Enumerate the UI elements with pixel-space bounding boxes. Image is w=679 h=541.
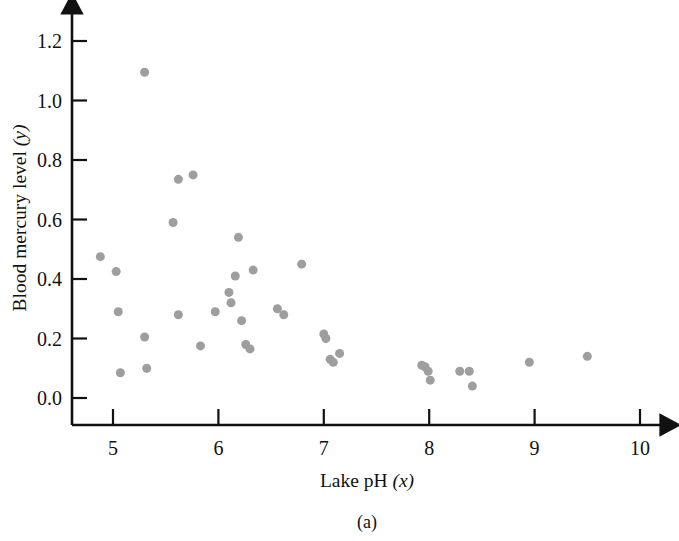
y-tick-label-0.0: 0.0	[37, 387, 62, 409]
y-tick-label-1.2: 1.2	[37, 30, 62, 52]
x-tick-label-8: 8	[424, 437, 434, 459]
data-point	[249, 266, 258, 275]
data-point	[189, 170, 198, 179]
data-point	[426, 376, 435, 385]
data-point	[174, 310, 183, 319]
y-axis-tick-labels: 0.00.20.40.60.81.01.2	[37, 30, 62, 409]
data-point	[465, 367, 474, 376]
data-point	[297, 260, 306, 269]
data-point	[525, 358, 534, 367]
scatter-plot-figure: 0.00.20.40.60.81.01.2 5678910 Lake pH (x…	[0, 0, 679, 541]
data-point	[468, 382, 477, 391]
data-point	[455, 367, 464, 376]
data-point	[224, 288, 233, 297]
data-point	[237, 316, 246, 325]
y-tick-label-0.2: 0.2	[37, 328, 62, 350]
figure-caption: (a)	[357, 512, 377, 533]
data-point	[174, 175, 183, 184]
data-point	[96, 252, 105, 261]
x-tick-label-10: 10	[630, 437, 650, 459]
x-axis-ticks	[113, 409, 640, 425]
y-axis-ticks	[72, 41, 87, 398]
data-point	[246, 344, 255, 353]
y-tick-label-0.6: 0.6	[37, 209, 62, 231]
data-point	[140, 68, 149, 77]
data-point	[329, 358, 338, 367]
scatter-plot-svg: 0.00.20.40.60.81.01.2 5678910 Lake pH (x…	[0, 0, 679, 541]
data-point	[114, 307, 123, 316]
x-tick-label-5: 5	[108, 437, 118, 459]
x-tick-label-6: 6	[213, 437, 223, 459]
data-point	[279, 310, 288, 319]
data-point	[424, 367, 433, 376]
y-tick-label-0.4: 0.4	[37, 268, 62, 290]
data-point	[321, 334, 330, 343]
x-tick-label-7: 7	[319, 437, 329, 459]
data-point	[169, 218, 178, 227]
data-point	[142, 364, 151, 373]
data-point	[231, 272, 240, 281]
x-axis-tick-labels: 5678910	[108, 437, 650, 459]
x-tick-label-9: 9	[530, 437, 540, 459]
y-tick-label-0.8: 0.8	[37, 149, 62, 171]
data-point	[583, 352, 592, 361]
data-point	[116, 368, 125, 377]
data-point	[196, 341, 205, 350]
data-point	[335, 349, 344, 358]
data-point-group	[96, 68, 592, 391]
data-point	[227, 298, 236, 307]
data-point	[112, 267, 121, 276]
data-point	[234, 233, 243, 242]
y-tick-label-1.0: 1.0	[37, 90, 62, 112]
data-point	[140, 333, 149, 342]
x-axis-title: Lake pH (x)	[320, 470, 414, 492]
y-axis-title: Blood mercury level (y)	[9, 125, 31, 312]
data-point	[211, 307, 220, 316]
